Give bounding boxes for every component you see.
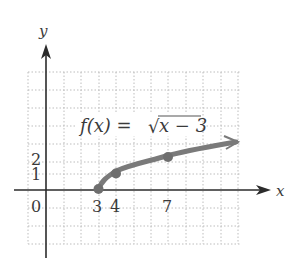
function-curve (99, 142, 237, 190)
origin-label: 0 (31, 197, 41, 216)
y-tick-1: 1 (31, 165, 41, 184)
point-3-0 (94, 184, 104, 194)
function-label: f(x) = √ x − 3 (76, 112, 207, 137)
x-axis-label: x (276, 182, 285, 200)
function-label-radicand: x − 3 (159, 115, 207, 136)
y-axis-label: y (38, 22, 48, 40)
x-tick-3: 3 (92, 197, 102, 216)
graph: y x 0 2 1 3 4 7 f(x) = √ x − 3 (0, 0, 306, 272)
function-label-prefix: f(x) = (78, 115, 132, 136)
x-tick-7: 7 (162, 197, 172, 216)
x-tick-4: 4 (110, 197, 120, 216)
grid (28, 72, 240, 244)
point-4-1 (111, 169, 121, 179)
point-7-2 (163, 152, 173, 162)
